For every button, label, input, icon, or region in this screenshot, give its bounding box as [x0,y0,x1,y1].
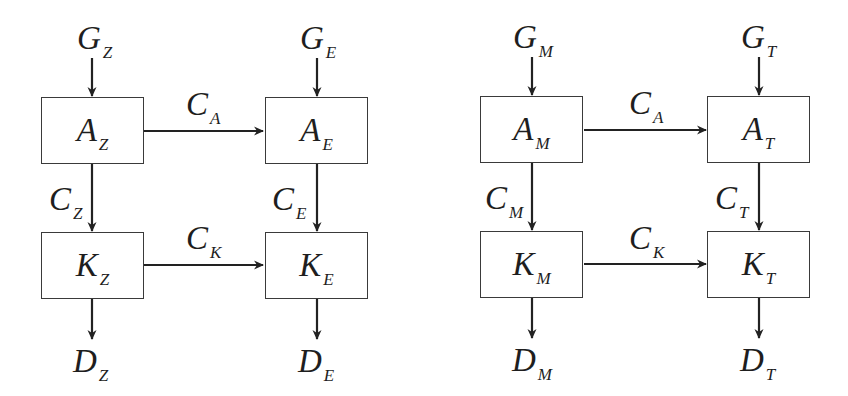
edge-label-ck: CK [186,222,221,255]
node-box-az: AZ [41,97,144,164]
edge-label-ca-right: CA [629,87,663,120]
edge-label-ca: CA [186,88,220,121]
edge-label-ct: CT [715,182,748,215]
node-box-kt: KT [707,231,810,298]
node-box-at: AT [707,96,810,163]
output-label-dz: DZ [73,345,108,378]
edge-label-ck-right: CK [629,222,664,255]
output-label-de: DE [298,345,334,378]
node-box-kz: KZ [41,232,144,299]
node-box-ke: KE [265,232,368,299]
flow-diagram-figure: ) [0,0,848,396]
edge-label-cz: CZ [49,183,82,216]
node-box-ae: AE [265,97,368,164]
edge-label-ce: CE [272,183,306,216]
input-label-gz: GZ [77,22,112,55]
input-label-ge: GE [300,22,336,55]
input-label-gm: GM [513,21,553,54]
output-label-dt: DT [740,344,775,377]
node-box-am: AM [480,96,583,163]
input-label-gt: GT [741,21,776,54]
node-box-km: KM [480,231,583,298]
output-label-dm: DM [512,344,552,377]
edge-label-cm: CM [485,182,523,215]
